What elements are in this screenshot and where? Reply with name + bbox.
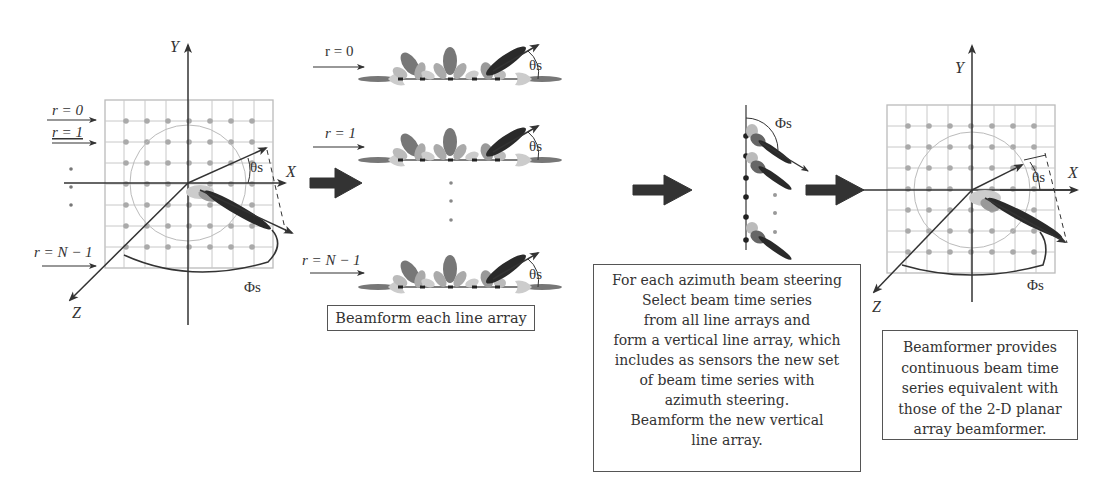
- result-x-axis-label: X: [1067, 164, 1079, 181]
- result-z-axis: [874, 190, 972, 292]
- caption-line: of beam time series with: [594, 370, 860, 390]
- flow-arrow-3: [806, 175, 864, 205]
- caption-line: Beamform the new vertical: [594, 410, 860, 430]
- caption-line: For each azimuth beam steering: [594, 270, 860, 290]
- caption-line: those of the 2-D planar: [883, 399, 1077, 420]
- result-y-axis-label: Y: [955, 59, 966, 76]
- line-theta-0: θs: [529, 57, 542, 73]
- caption-line: azimuth steering.: [594, 390, 860, 410]
- caption-vertical-array: For each azimuth beam steering Select be…: [593, 264, 861, 472]
- ellipsis-dots: [69, 167, 73, 207]
- caption-line: form a vertical line array, which: [594, 330, 860, 350]
- result-z-axis-label: Z: [872, 298, 882, 315]
- caption-text: Beamform each line array: [335, 310, 526, 326]
- vertical-array-panel: Φs: [743, 105, 808, 262]
- result-theta-label: θs: [1032, 169, 1045, 185]
- caption-beamform-line-arrays: Beamform each line array: [327, 305, 535, 331]
- flow-arrow-1: [310, 168, 362, 198]
- z-axis: [70, 183, 188, 300]
- line-row-label-0: r = 0: [325, 43, 353, 59]
- phi-s-label: Φs: [244, 279, 261, 295]
- y-axis-label: Y: [170, 38, 181, 55]
- row-label-0: r = 0: [52, 102, 83, 118]
- z-axis-label: Z: [72, 304, 82, 321]
- line-theta-1: θs: [529, 138, 542, 154]
- row-label-1: r = 1: [52, 124, 83, 140]
- row-label-n-1: r = N − 1: [34, 244, 93, 260]
- caption-line: Select beam time series: [594, 290, 860, 310]
- vertical-phi-label: Φs: [775, 115, 792, 131]
- planar-array-panel: Y X Z θs Φs r = 0 r = 1 r = N − 1: [34, 38, 297, 325]
- flow-arrow-2: [633, 175, 692, 205]
- caption-line: continuous beam time: [883, 358, 1077, 379]
- result-phi-label: Φs: [1027, 277, 1044, 293]
- line-row-label-1: r = 1: [325, 125, 356, 141]
- result-panel: Y X Z θs Φs: [862, 46, 1079, 315]
- caption-line: Beamformer provides: [883, 337, 1077, 358]
- caption-line: includes as sensors the new set: [594, 350, 860, 370]
- caption-line: series equivalent with: [883, 378, 1077, 399]
- line-theta-n-1: θs: [529, 266, 542, 282]
- x-axis-label: X: [285, 163, 297, 180]
- caption-result: Beamformer provides continuous beam time…: [882, 330, 1078, 440]
- line-row-label-n-1: r = N − 1: [302, 252, 361, 268]
- theta-s-label: θs: [250, 159, 263, 175]
- line-arrays-panel: r = 0 θs r = 1 θs r = N − 1 θs: [302, 42, 562, 293]
- caption-line: line array.: [594, 430, 860, 450]
- caption-line: array beamformer.: [883, 419, 1077, 440]
- caption-line: from all line arrays and: [594, 310, 860, 330]
